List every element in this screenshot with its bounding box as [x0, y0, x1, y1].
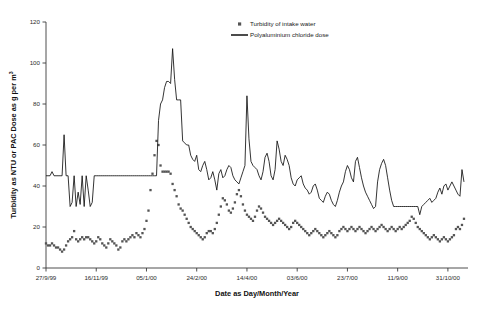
data-point-marker — [248, 216, 250, 218]
data-point-marker — [169, 173, 171, 175]
legend-label: Turbidity of intake water — [250, 20, 315, 27]
data-point-marker — [234, 201, 236, 203]
y-tick-label: 40 — [33, 182, 40, 189]
data-point-marker — [368, 228, 370, 230]
data-point-marker — [411, 216, 413, 218]
data-point-marker — [179, 207, 181, 209]
data-point-marker — [374, 230, 376, 232]
data-point-marker — [324, 234, 326, 236]
data-point-marker — [246, 214, 248, 216]
data-point-marker — [376, 228, 378, 230]
data-point-marker — [228, 209, 230, 211]
data-point-marker — [360, 228, 362, 230]
data-point-marker — [252, 220, 254, 222]
data-point-marker — [352, 228, 354, 230]
data-point-marker — [372, 228, 374, 230]
data-point-marker — [459, 228, 461, 230]
data-point-marker — [73, 230, 75, 232]
data-point-marker — [149, 189, 151, 191]
data-point-marker — [200, 236, 202, 238]
data-point-marker — [429, 238, 431, 240]
data-point-marker — [115, 244, 117, 246]
data-point-marker — [109, 238, 111, 240]
data-point-marker — [208, 230, 210, 232]
data-point-marker — [403, 226, 405, 228]
data-point-marker — [380, 224, 382, 226]
axis-titles: Date as Day/Month/YearTurbidity as NTU o… — [8, 71, 299, 298]
data-point-marker — [397, 228, 399, 230]
y-tick-label: 100 — [30, 59, 41, 66]
data-point-marker — [173, 189, 175, 191]
data-point-marker — [224, 199, 226, 201]
data-point-marker — [304, 230, 306, 232]
data-point-marker — [388, 228, 390, 230]
data-point-marker — [83, 238, 85, 240]
data-point-marker — [63, 248, 65, 250]
data-point-marker — [71, 236, 73, 238]
data-point-marker — [250, 218, 252, 220]
data-point-marker — [194, 230, 196, 232]
x-tick-label: 27/9/99 — [36, 274, 57, 281]
x-tick-label: 14/4/00 — [237, 274, 258, 281]
data-point-marker — [107, 242, 109, 244]
data-point-marker — [457, 226, 459, 228]
data-point-marker — [356, 228, 358, 230]
data-point-marker — [99, 238, 101, 240]
data-point-marker — [47, 244, 49, 246]
y-tick-label: 0 — [37, 264, 41, 271]
data-point-marker — [288, 228, 290, 230]
data-point-marker — [125, 240, 127, 242]
data-point-marker — [113, 242, 115, 244]
x-tick-label: 03/6/00 — [287, 274, 308, 281]
data-point-marker — [91, 240, 93, 242]
data-point-marker — [308, 234, 310, 236]
data-point-marker — [382, 226, 384, 228]
x-tick-label: 23/7/00 — [337, 274, 358, 281]
axes-layer — [46, 22, 468, 268]
data-point-marker — [188, 222, 190, 224]
data-point-marker — [67, 240, 69, 242]
data-point-marker — [419, 228, 421, 230]
data-point-marker — [151, 173, 153, 175]
data-point-marker — [455, 228, 457, 230]
y-axis-title: Turbidity as NTU or PAC Dose as g per m3 — [8, 71, 18, 218]
data-point-marker — [266, 218, 268, 220]
data-point-marker — [145, 220, 147, 222]
data-point-marker — [123, 238, 125, 240]
data-point-marker — [399, 226, 401, 228]
data-point-marker — [190, 226, 192, 228]
data-point-marker — [437, 238, 439, 240]
data-point-marker — [220, 205, 222, 207]
y-tick-label: 60 — [33, 141, 40, 148]
data-point-marker — [300, 226, 302, 228]
data-point-marker — [139, 236, 141, 238]
data-point-marker — [264, 216, 266, 218]
data-point-marker — [348, 228, 350, 230]
data-point-marker — [286, 226, 288, 228]
y-axis-ticks: 020406080100120 — [30, 18, 46, 271]
data-point-marker — [439, 240, 441, 242]
data-point-marker — [435, 236, 437, 238]
data-point-marker — [230, 212, 232, 214]
data-point-marker — [175, 195, 177, 197]
data-point-marker — [280, 220, 282, 222]
legend-label: Polyaluminium chloride dose — [250, 31, 329, 38]
data-point-marker — [131, 234, 133, 236]
data-point-marker — [153, 154, 155, 156]
data-point-marker — [346, 230, 348, 232]
data-point-marker — [262, 212, 264, 214]
data-point-marker — [338, 230, 340, 232]
data-point-marker — [370, 226, 372, 228]
data-point-marker — [141, 232, 143, 234]
data-point-marker — [212, 232, 214, 234]
data-point-marker — [49, 244, 51, 246]
x-axis-title: Date as Day/Month/Year — [215, 289, 299, 298]
data-point-marker — [95, 240, 97, 242]
data-point-marker — [390, 226, 392, 228]
y-axis-title-superscript: 3 — [8, 71, 14, 74]
data-point-marker — [312, 230, 314, 232]
data-point-marker — [204, 236, 206, 238]
data-point-marker — [240, 195, 242, 197]
data-point-marker — [155, 140, 157, 142]
data-point-marker — [395, 230, 397, 232]
